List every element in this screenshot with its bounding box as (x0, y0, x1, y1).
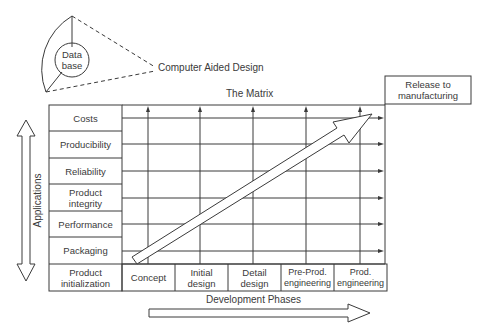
development-phases-arrow (149, 304, 370, 322)
cad-label: Computer Aided Design (158, 62, 264, 73)
phase-detail-design: Detail design (228, 264, 281, 291)
database-label: Data base (55, 48, 89, 72)
diagonal-progress-arrow (132, 114, 372, 264)
phase-initial-design: Initial design (175, 264, 228, 291)
application-row-product-integrity: Product integrity (49, 184, 122, 211)
phase-concept: Concept (122, 264, 175, 291)
application-row-reliability: Reliability (49, 158, 122, 184)
matrix-title: The Matrix (226, 88, 273, 99)
development-phases-label: Development Phases (206, 294, 301, 305)
product-initialization-cell: Product initialization (49, 264, 122, 291)
phase-pre-prod-engineering: Pre-Prod. engineering (281, 264, 334, 291)
phase-prod-engineering: Prod. engineering (334, 264, 387, 291)
application-row-performance: Performance (49, 211, 122, 237)
applications-axis-label: Applications (32, 161, 43, 241)
release-to-manufacturing-label: Release to manufacturing (385, 76, 471, 104)
application-row-costs: Costs (49, 105, 122, 131)
application-row-packaging: Packaging (49, 237, 122, 264)
application-row-producibility: Producibility (49, 131, 122, 158)
